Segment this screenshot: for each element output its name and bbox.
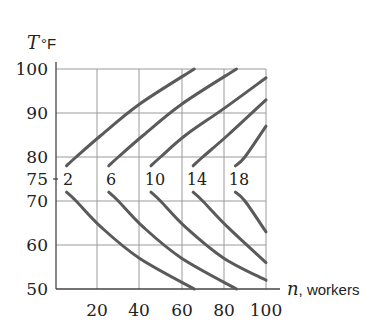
contour-chart: T°F n, workers 100 90 80 75 70 60 50 20 … xyxy=(0,0,371,325)
curve-labels: 2 6 10 14 18 xyxy=(63,170,249,189)
curve-label-10: 10 xyxy=(145,170,165,189)
curve-label-14: 14 xyxy=(187,170,207,189)
contour-curve-18-upper xyxy=(235,126,266,166)
contour-curve-18-lower xyxy=(235,192,266,232)
contour-curve-2-upper xyxy=(67,69,195,166)
contour-curve-14-upper xyxy=(193,100,266,166)
curve-label-18: 18 xyxy=(229,170,249,189)
y-tick-100: 100 xyxy=(16,59,48,79)
y-axis-title: T°F xyxy=(27,32,56,53)
x-tick-80: 80 xyxy=(213,300,235,320)
y-tick-90: 90 xyxy=(26,103,48,123)
y-tick-60: 60 xyxy=(26,235,48,255)
y-tick-labels: 100 90 80 75 70 60 50 xyxy=(16,59,48,299)
contour-curve-14-lower xyxy=(193,192,266,262)
curve-label-6: 6 xyxy=(106,170,116,189)
x-tick-20: 20 xyxy=(86,300,108,320)
x-tick-40: 40 xyxy=(128,300,150,320)
x-tick-100: 100 xyxy=(250,300,282,320)
y-tick-50: 50 xyxy=(26,279,48,299)
y-tick-75: 75 xyxy=(26,169,48,189)
contour-curve-2-lower xyxy=(67,192,195,289)
contour-curve-6-lower xyxy=(109,192,237,289)
curve-label-2: 2 xyxy=(63,170,73,189)
x-axis-title: n, workers xyxy=(287,278,359,299)
y-tick-70: 70 xyxy=(26,191,48,211)
x-tick-60: 60 xyxy=(171,300,193,320)
x-tick-labels: 20 40 60 80 100 xyxy=(86,300,282,320)
y-tick-80: 80 xyxy=(26,147,48,167)
